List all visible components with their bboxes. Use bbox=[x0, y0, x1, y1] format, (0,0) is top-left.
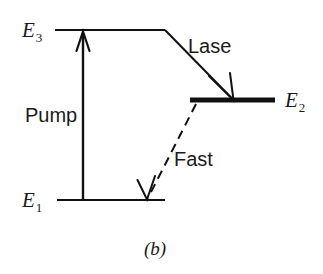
level-label-e3: E3 bbox=[21, 18, 42, 45]
level-label-e1: E1 bbox=[21, 188, 42, 215]
energy-level-diagram: E3 E2 E1 Pump Lase Fast (b) bbox=[0, 0, 323, 274]
figure-caption: (b) bbox=[144, 238, 166, 260]
level-label-e3-subscript: 3 bbox=[36, 30, 43, 45]
fast-label: Fast bbox=[174, 148, 213, 170]
pump-label: Pump bbox=[25, 104, 77, 126]
level-label-e2-subscript: 2 bbox=[299, 100, 306, 115]
lase-label: Lase bbox=[188, 35, 231, 57]
level-label-e2-base: E bbox=[284, 88, 298, 112]
level-label-e1-base: E bbox=[21, 188, 35, 212]
energy-level-diagram-figure: E3 E2 E1 Pump Lase Fast (b) bbox=[0, 0, 323, 274]
level-label-e3-base: E bbox=[21, 18, 35, 42]
level-label-e1-subscript: 1 bbox=[36, 200, 43, 215]
level-label-e2: E2 bbox=[284, 88, 305, 115]
